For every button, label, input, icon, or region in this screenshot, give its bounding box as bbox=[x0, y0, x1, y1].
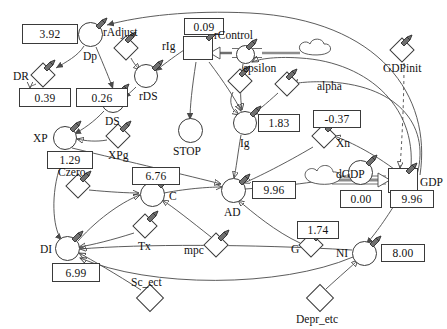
value-box-NI[interactable]: 8.00 bbox=[381, 244, 425, 262]
label-DS: DS bbox=[105, 115, 120, 127]
value-box-DR[interactable]: 0.39 bbox=[19, 88, 71, 107]
label-rDS: rDS bbox=[139, 90, 158, 102]
value-box-G[interactable]: 1.74 bbox=[297, 221, 339, 239]
label-Xn: Xn bbox=[336, 137, 350, 149]
label-C: C bbox=[169, 190, 177, 202]
value-box-DI[interactable]: 6.99 bbox=[52, 263, 100, 282]
label-epsilon: epsilon bbox=[243, 62, 276, 74]
value-box-Dp[interactable]: 3.92 bbox=[22, 24, 78, 44]
model-diagram-canvas: 3.92 0.09 0.39 0.26 1.83 -0.37 1.29 6.76… bbox=[0, 0, 447, 329]
value-box-dGDP[interactable]: 0.00 bbox=[340, 190, 382, 208]
label-dGDP: dGDP bbox=[336, 168, 365, 180]
value-box-C[interactable]: 6.76 bbox=[132, 167, 180, 185]
value-box-Xn[interactable]: -0.37 bbox=[313, 110, 361, 128]
label-mpc: mpc bbox=[184, 244, 204, 256]
value-box-Ig[interactable]: 1.83 bbox=[258, 114, 300, 132]
label-XPg: XPg bbox=[108, 149, 128, 161]
label-XP: XP bbox=[33, 132, 48, 144]
label-rAdjust: rAdjust bbox=[103, 26, 138, 38]
label-G: G bbox=[291, 243, 299, 255]
label-Czero: Czero bbox=[58, 166, 85, 178]
label-STOP: STOP bbox=[173, 145, 201, 157]
label-Sc_ect: Sc_ect bbox=[131, 276, 162, 288]
label-rControl: rControl bbox=[214, 29, 253, 41]
label-Dp: Dp bbox=[83, 50, 97, 62]
label-Depr_etc: Depr_etc bbox=[296, 313, 338, 325]
label-DR: DR bbox=[13, 70, 29, 82]
value-box-GDP[interactable]: 9.96 bbox=[390, 190, 434, 208]
label-Ig: Ig bbox=[240, 137, 250, 149]
value-box-DS[interactable]: 0.26 bbox=[76, 88, 128, 107]
label-GDP: GDP bbox=[420, 176, 443, 188]
label-alpha: alpha bbox=[317, 80, 342, 92]
label-DI: DI bbox=[40, 243, 52, 255]
label-rIg: rIg bbox=[162, 40, 175, 52]
label-NI: NI bbox=[336, 247, 348, 259]
label-GDPinit: GDPinit bbox=[383, 62, 421, 74]
label-Tx: Tx bbox=[138, 240, 151, 252]
label-AD: AD bbox=[224, 206, 241, 218]
value-box-AD[interactable]: 9.96 bbox=[252, 181, 296, 199]
